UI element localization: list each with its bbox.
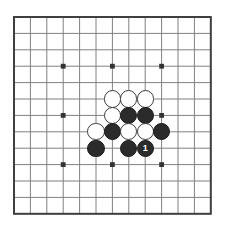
star-point <box>159 113 164 118</box>
black-stone[interactable] <box>137 107 154 124</box>
star-point <box>61 162 66 167</box>
move-number-label: 1 <box>143 144 148 153</box>
star-point <box>159 162 164 167</box>
white-stone[interactable] <box>120 90 137 107</box>
white-stone[interactable] <box>137 90 154 107</box>
black-stone[interactable]: 1 <box>137 140 154 157</box>
white-stone[interactable] <box>87 123 104 140</box>
star-point <box>110 162 115 167</box>
star-point <box>61 64 66 69</box>
white-stone[interactable] <box>137 123 154 140</box>
white-stone[interactable] <box>104 90 121 107</box>
black-stone[interactable] <box>120 140 137 157</box>
star-point <box>61 113 66 118</box>
go-board-container: 1 <box>0 0 228 228</box>
white-stone[interactable] <box>104 107 121 124</box>
star-point <box>110 64 115 69</box>
black-stone[interactable] <box>87 140 104 157</box>
star-point <box>159 64 164 69</box>
